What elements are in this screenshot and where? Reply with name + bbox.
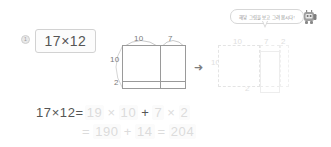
model-left-label-top-10: 10 [134, 34, 144, 43]
equation-line-1: 17×12= 19 × 10 + 7 × 2 [36, 105, 191, 120]
equation-1-lhs: 17×12= [36, 105, 84, 120]
model-left-label-side-10: 10 [110, 55, 120, 64]
model-left-label-top-7: 7 [168, 34, 173, 43]
worksheet-page: 1 17×12 해당 그림을 보고 그려 봅시다! [0, 0, 331, 147]
equation-2-equals-2: = [158, 124, 166, 139]
area-model-right-block-a [218, 45, 260, 87]
problem-expression-chip: 17×12 [35, 29, 96, 53]
area-model-left-vertical-divider [160, 45, 161, 89]
equation-1-answer-d[interactable]: 2 [179, 105, 191, 120]
area-model-left-horizontal-divider [122, 81, 186, 82]
area-model-right-block-d [280, 45, 289, 87]
problem-number-bullet: 1 [21, 35, 30, 44]
equation-line-2: = 190 + 14 = 204 [80, 124, 197, 139]
mascot-character-icon [301, 9, 319, 25]
hint-bubble-tail-inner [263, 21, 267, 26]
equation-1-answer-c[interactable]: 7 [152, 105, 164, 120]
equation-1-operator-multiply-1: × [107, 105, 115, 120]
equation-2-answer-b[interactable]: 14 [135, 124, 155, 139]
transform-arrow-icon: ➜ [194, 62, 203, 73]
hint-bubble-text: 해당 그림을 보고 그려 봅시다! [239, 14, 295, 20]
area-model-left [122, 45, 186, 89]
equation-2-answer-c[interactable]: 204 [169, 124, 197, 139]
area-model-right [218, 45, 288, 93]
model-left-label-side-2: 2 [114, 78, 119, 87]
area-model-left-rectangle [122, 45, 186, 89]
equation-2-equals-1: = [82, 124, 90, 139]
equation-1-operator-plus: + [141, 105, 149, 120]
equation-1-answer-b[interactable]: 10 [119, 105, 139, 120]
equation-2-answer-a[interactable]: 190 [93, 124, 121, 139]
equation-1-operator-multiply-2: × [167, 105, 175, 120]
area-model-right-block-c [260, 51, 280, 93]
equation-1-answer-a[interactable]: 19 [85, 105, 105, 120]
equation-2-operator-plus: + [124, 124, 132, 139]
